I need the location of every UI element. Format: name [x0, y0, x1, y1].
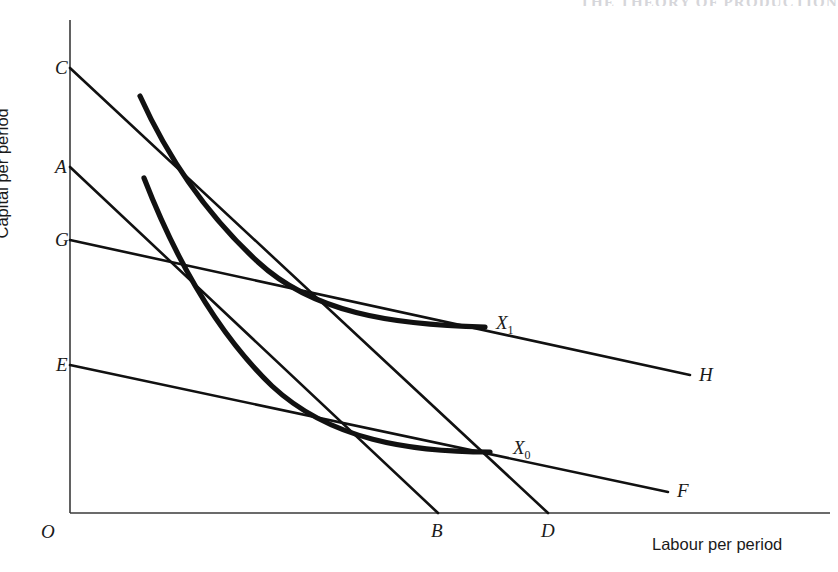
label-point-f: F: [677, 481, 689, 500]
isocost-line-ef: [70, 365, 668, 492]
label-point-g: G: [55, 230, 69, 249]
isocost-line-ab: [70, 167, 438, 513]
isocost-line-gh: [70, 240, 690, 375]
label-isoquant-x0: X0: [513, 438, 531, 461]
y-axis-title: Capital per period: [0, 108, 10, 238]
label-point-d: D: [541, 521, 555, 540]
label-point-b: B: [431, 521, 443, 540]
isoquant-isocost-figure: THE THEORY OF PRODUCTION C A G E O B D H…: [0, 0, 838, 572]
label-point-a: A: [55, 157, 67, 176]
x-axis-title: Labour per period: [652, 536, 782, 553]
label-isoquant-x0-sub: 0: [525, 448, 531, 462]
isocost-line-cd: [70, 68, 548, 513]
label-isoquant-x0-base: X: [513, 437, 525, 458]
label-isoquant-x1-sub: 1: [508, 323, 514, 337]
label-isoquant-x1: X1: [496, 313, 514, 336]
label-isoquant-x1-base: X: [496, 312, 508, 333]
label-point-h: H: [699, 365, 713, 384]
label-point-e: E: [56, 355, 68, 374]
label-origin-o: O: [41, 522, 55, 541]
label-point-c: C: [55, 58, 68, 77]
diagram-canvas: [0, 0, 838, 572]
